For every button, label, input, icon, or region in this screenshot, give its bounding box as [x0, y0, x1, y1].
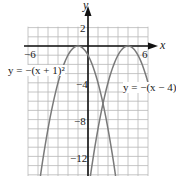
y-axis-label: y — [83, 0, 88, 11]
tick-label-neg8: −8 — [74, 116, 86, 127]
tick-label-neg4: −4 — [76, 79, 88, 90]
curve2-label: y = −(x − 4)² — [123, 82, 176, 93]
tick-label-2: 2 — [80, 23, 86, 34]
curve1-label: y = −(x + 1)² — [8, 65, 65, 76]
tick-label-6: 6 — [142, 49, 148, 60]
x-axis-arrow-icon — [148, 43, 158, 50]
tick-label-neg12: −12 — [70, 153, 87, 164]
tick-label-neg6: −6 — [24, 49, 36, 60]
x-axis-label: x — [160, 39, 165, 51]
